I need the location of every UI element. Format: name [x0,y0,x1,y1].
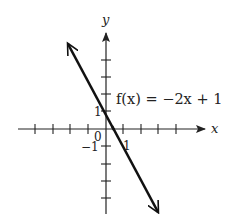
function-graph: y x f(x) = −2x + 1 1 0 −1 1 [0,0,227,214]
equation-label: f(x) = −2x + 1 [116,91,222,107]
function-line [68,44,114,130]
x-one-label: 1 [123,139,131,153]
y-neg-one-label: −1 [81,140,99,154]
y-one-label: 1 [94,105,102,119]
function-line-lower [112,126,158,212]
y-axis-label: y [101,12,110,27]
x-axis-label: x [211,121,219,136]
